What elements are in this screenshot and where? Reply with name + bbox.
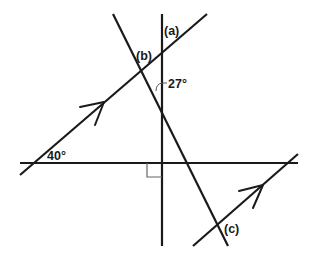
angle-label-27: 27° <box>168 77 187 91</box>
label-c: (c) <box>224 222 239 236</box>
label-a: (a) <box>164 24 179 38</box>
angle-label-40: 40° <box>47 149 66 163</box>
geometry-diagram: (a) (b) (c) 27° 40° <box>0 0 310 264</box>
parallel-line-right <box>193 154 298 246</box>
label-b: (b) <box>136 49 152 63</box>
right-angle-marker-icon <box>147 163 162 177</box>
transversal-steep-line <box>113 14 228 246</box>
